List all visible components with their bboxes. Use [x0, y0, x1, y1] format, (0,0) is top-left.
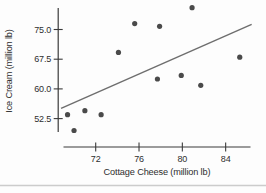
data-point	[237, 55, 242, 60]
data-point	[65, 112, 70, 117]
y-tick-label: 75.0	[34, 25, 51, 35]
data-point	[71, 128, 76, 133]
x-tick-label: 80	[177, 154, 187, 164]
y-tick-label: 52.5	[34, 114, 51, 124]
x-tick-label: 72	[91, 154, 101, 164]
x-tick-label: 84	[221, 154, 231, 164]
data-point	[99, 112, 104, 117]
x-tick-label: 76	[134, 154, 144, 164]
data-point	[198, 83, 203, 88]
data-point	[155, 76, 160, 81]
y-tick-label: 67.5	[34, 54, 51, 64]
y-tick-label: 60.0	[34, 84, 51, 94]
trend-line	[61, 24, 252, 108]
scatter-chart: 52.560.067.575.072768084 Ice Cream (mill…	[0, 0, 266, 193]
chart-layer: 52.560.067.575.072768084	[0, 5, 266, 185]
scatter-plot-figure: 52.560.067.575.072768084 Ice Cream (mill…	[0, 0, 266, 193]
data-point	[189, 5, 194, 10]
data-point	[82, 108, 87, 113]
x-axis-title: Cottage Cheese (million lb)	[104, 167, 211, 177]
data-point	[157, 24, 162, 29]
data-point	[179, 73, 184, 78]
data-point	[132, 21, 137, 26]
y-axis-title: Ice Cream (million lb)	[4, 29, 14, 113]
data-point	[116, 50, 121, 55]
